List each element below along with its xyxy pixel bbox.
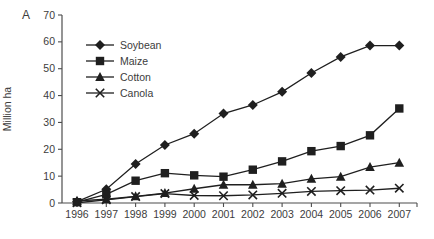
series-soybean-line	[77, 46, 399, 202]
series-maize-line	[77, 108, 399, 202]
series-soybean-marker	[248, 100, 258, 110]
figure: A 01020304050607019961997199819992000200…	[0, 0, 434, 239]
series-soybean-marker	[336, 52, 346, 62]
y-tick-label: 10	[43, 170, 55, 182]
legend-item-maize: Maize	[86, 55, 148, 67]
x-tick-label: 2007	[388, 208, 412, 220]
legend-diamond-icon	[95, 40, 105, 50]
series-cotton-marker	[395, 158, 405, 167]
x-tick-label: 2005	[329, 208, 353, 220]
legend-label: Canola	[120, 87, 153, 99]
series-maize-marker	[307, 147, 315, 155]
legend: SoybeanMaizeCottonCanola	[86, 39, 162, 99]
series-soybean-marker	[394, 41, 404, 51]
y-tick-label: 40	[43, 89, 55, 101]
x-tick-label: 2000	[183, 208, 207, 220]
y-tick-label: 70	[43, 9, 55, 21]
series-soybean-marker	[365, 41, 375, 51]
legend-square-icon	[96, 57, 104, 65]
y-tick-label: 0	[49, 197, 55, 209]
x-tick-label: 1997	[95, 208, 119, 220]
series-maize-marker	[278, 157, 286, 165]
legend-label: Soybean	[120, 39, 162, 51]
legend-label: Maize	[120, 55, 148, 67]
panel-label: A	[22, 8, 30, 22]
x-tick-label: 2004	[300, 208, 324, 220]
series-soybean-marker	[160, 140, 170, 150]
y-axis-label: Million ha	[1, 87, 13, 132]
series-maize-marker	[219, 172, 227, 180]
x-tick-label: 2006	[358, 208, 382, 220]
x-tick-label: 2001	[212, 208, 236, 220]
series-soybean-marker	[277, 87, 287, 97]
legend-item-canola: Canola	[86, 87, 153, 99]
y-tick-label: 50	[43, 62, 55, 74]
x-tick-label: 1998	[124, 208, 148, 220]
x-tick-label: 1999	[153, 208, 177, 220]
legend-item-cotton: Cotton	[86, 71, 151, 83]
y-tick-label: 20	[43, 143, 55, 155]
series-soybean-marker	[306, 68, 316, 78]
series-maize-marker	[161, 169, 169, 177]
series-maize-marker	[131, 177, 139, 185]
series-maize	[73, 104, 404, 206]
series-maize-marker	[190, 171, 198, 179]
y-tick-label: 30	[43, 116, 55, 128]
series-maize-marker	[337, 142, 345, 150]
series-maize-marker	[249, 165, 257, 173]
legend-item-soybean: Soybean	[86, 39, 162, 51]
series-soybean-marker	[219, 109, 229, 119]
x-tick-label: 2002	[241, 208, 265, 220]
series-canola-line	[77, 188, 399, 203]
legend-label: Cotton	[120, 71, 151, 83]
series-maize-marker	[366, 131, 374, 139]
x-tick-label: 1996	[65, 208, 89, 220]
line-chart: 0102030405060701996199719981999200020012…	[0, 0, 434, 239]
y-tick-label: 60	[43, 35, 55, 47]
series-soybean-marker	[189, 129, 199, 139]
series-maize-marker	[395, 104, 403, 112]
x-tick-label: 2003	[270, 208, 294, 220]
